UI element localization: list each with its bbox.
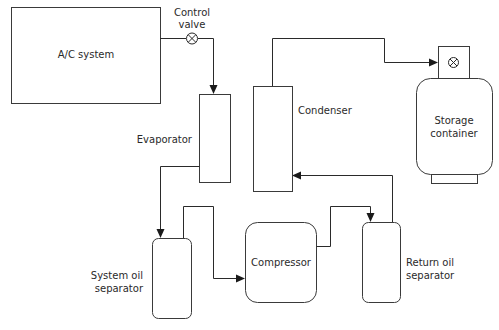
evaporator-box (200, 95, 231, 183)
system-oil-separator-box (153, 239, 192, 319)
storage-container-label-1: Storage (434, 115, 473, 126)
storage-container-body (417, 79, 493, 175)
pipe-valve-to-evaporator (198, 39, 214, 87)
system-oil-separator-label-1: System oil (91, 270, 143, 281)
arrow-into-storage-container (429, 59, 438, 67)
control-valve-label-2: valve (179, 19, 206, 30)
arrow-into-return-oil-separator (367, 213, 375, 222)
compressor-label: Compressor (251, 257, 312, 268)
ac-system-label: A/C system (58, 49, 115, 60)
storage-valve-icon (449, 58, 459, 68)
control-valve-label-1: Control (174, 7, 210, 18)
system-oil-separator-label-2: separator (95, 283, 144, 294)
return-oil-separator-label-2: separator (406, 270, 455, 281)
storage-container-label-2: container (430, 128, 478, 139)
pipe-return-oil-separator-to-condenser (300, 176, 393, 223)
pipe-condenser-to-storage (273, 39, 430, 87)
return-oil-separator-label-1: Return oil (406, 257, 454, 268)
arrow-into-evaporator (210, 85, 218, 94)
condenser-label: Condenser (298, 105, 353, 116)
recovery-diagram: A/C system Control valve Evaporator Syst… (0, 0, 499, 330)
condenser-box (254, 87, 293, 192)
arrow-into-condenser (292, 172, 301, 180)
pipe-evaporator-to-system-oil-separator (161, 167, 200, 231)
arrow-into-compressor (236, 275, 245, 283)
control-valve-icon (187, 33, 198, 44)
evaporator-label: Evaporator (137, 134, 193, 145)
return-oil-separator-box (363, 223, 401, 303)
arrow-into-system-oil-separator (157, 229, 165, 238)
